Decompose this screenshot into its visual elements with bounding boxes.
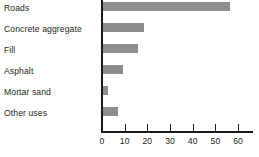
category-label-fill: Fill [4, 45, 96, 55]
x-axis-tick-labels: 0102030405060 [101, 136, 259, 154]
x-axis-tick-60 [238, 124, 239, 132]
x-axis-tick-label-60: 60 [233, 136, 243, 147]
category-label-other-uses: Other uses [4, 108, 96, 118]
category-label-mortar-sand: Mortar sand [4, 87, 96, 97]
x-axis-tick-20 [147, 124, 148, 132]
x-axis-tick-30 [170, 124, 171, 132]
category-label-roads: Roads [4, 3, 96, 13]
plot-area [101, 0, 259, 133]
bar-concrete-aggregate [103, 23, 144, 32]
x-axis-tick-label-40: 40 [188, 136, 198, 147]
bar-asphalt [103, 65, 123, 74]
x-axis-tick-label-50: 50 [211, 136, 221, 147]
category-label-concrete-aggregate: Concrete aggregate [4, 24, 96, 34]
x-axis-tick-40 [193, 124, 194, 132]
bar-fill [103, 44, 138, 53]
bar-other-uses [103, 107, 118, 116]
category-label-asphalt: Asphalt [4, 66, 96, 76]
x-axis-tick-label-0: 0 [100, 136, 105, 147]
x-axis-tick-label-10: 10 [120, 136, 130, 147]
bar-roads [103, 2, 230, 11]
x-axis-tick-10 [125, 124, 126, 132]
category-axis-labels: Roads Concrete aggregate Fill Asphalt Mo… [0, 0, 98, 133]
x-axis-tick-50 [215, 124, 216, 132]
x-axis-tick-label-30: 30 [165, 136, 175, 147]
x-axis-tick-label-20: 20 [142, 136, 152, 147]
horizontal-bar-chart: Roads Concrete aggregate Fill Asphalt Mo… [0, 0, 259, 157]
bar-mortar-sand [103, 86, 108, 95]
